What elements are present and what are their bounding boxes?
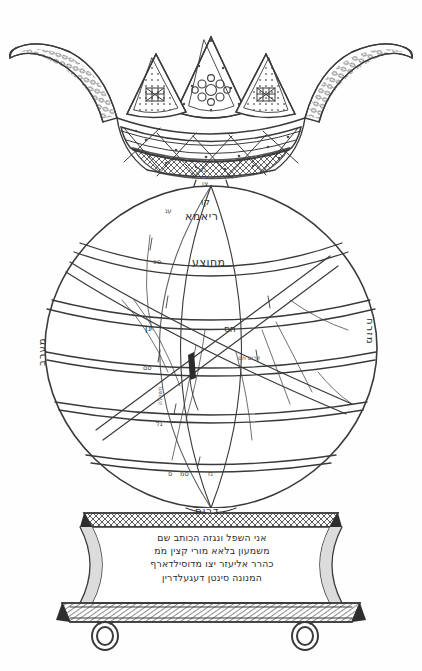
crown-neck-label: צו xyxy=(202,180,208,188)
globe-band-right-label: דרום חם xyxy=(238,354,260,361)
inscription-line-4: המנונה סינטן דעגעלדרין xyxy=(92,571,332,584)
globe-tick-label-2: ספ xyxy=(153,258,161,266)
globe-equator-label: מחוצע xyxy=(192,256,226,269)
globe-south-label: דרום xyxy=(195,505,219,516)
engraving-canvas: נזר צו קו ריאמא מחוצע נן חס דרום חם חשכל… xyxy=(0,0,422,671)
globe-tick-label-6: סמ xyxy=(180,470,189,478)
globe-tick-label-7: נז xyxy=(208,470,213,478)
globe-tick-label-1: ענ xyxy=(165,207,172,215)
globe-upper-zone-label: ריאמא xyxy=(185,210,218,223)
globe-mid-left-label: נן xyxy=(145,323,151,333)
globe-east-label: מזרח xyxy=(365,318,376,344)
inscription-line-2: משמעון בלאא מורי קצין מֹמ xyxy=(92,544,332,557)
globe-west-label: מערב xyxy=(36,338,47,366)
globe-north-cap-label: קו xyxy=(201,197,210,207)
crown-band-label: נזר xyxy=(197,166,206,174)
pedestal-inscription: אני השפל ונגזה הכותב שם משמעון בלאא מורי… xyxy=(92,531,332,584)
globe-mid-right-label: חס xyxy=(224,324,236,334)
inscription-line-1: אני השפל ונגזה הכותב שם xyxy=(92,531,332,544)
globe-tick-label-5: ס xyxy=(168,470,172,478)
globe-tick-label-4: גל xyxy=(156,420,162,428)
globe-tick-label-3: סם xyxy=(143,364,152,372)
globe-diagonal-left-label: חשכלה xyxy=(156,386,163,405)
inscription-line-3: כהרר אליעזר יצו מדוסילדארף xyxy=(92,557,332,570)
